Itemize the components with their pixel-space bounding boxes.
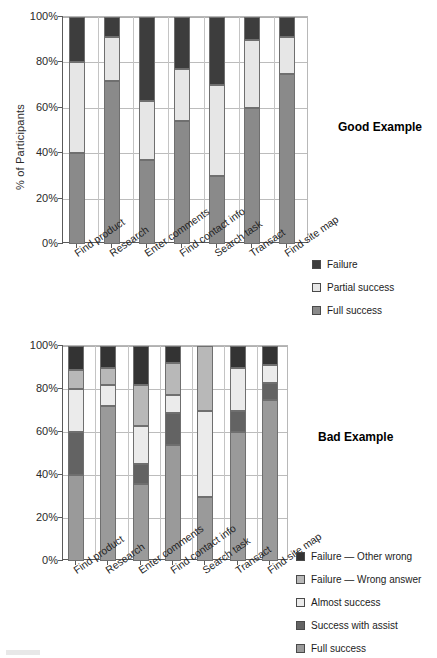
y-tick-mark (58, 152, 63, 153)
bar-segment (262, 346, 278, 365)
bar-segment (68, 370, 84, 389)
bar-segment (262, 400, 278, 561)
bar-segment (100, 385, 116, 407)
bar-segment (279, 74, 295, 244)
y-tick-mark (58, 431, 63, 432)
bad-example-plot-area (62, 345, 288, 560)
y-tick-mark (58, 107, 63, 108)
bar-segment (100, 368, 116, 385)
legend-item: Success with assist (296, 617, 421, 633)
legend-item: Failure — Wrong answer (296, 571, 421, 587)
legend-label: Failure — Wrong answer (311, 574, 421, 585)
legend-item: Full success (312, 302, 394, 318)
category-divider (133, 17, 134, 242)
bar-segment (68, 389, 84, 432)
y-tick-40: 40% (18, 146, 58, 158)
y-tick-mark (58, 560, 63, 561)
y-axis-tick-labels: 0%20%40%60%80%100% (18, 16, 58, 243)
legend-label: Full success (327, 305, 382, 316)
bar-segment (244, 40, 260, 108)
bar-segment (139, 17, 155, 101)
category-divider (274, 17, 275, 242)
bar-segment (244, 17, 260, 40)
bad-example-chart: 0%20%40%60%80%100% Find productResearchE… (0, 330, 437, 658)
category-divider (257, 346, 258, 559)
y-tick-mark (58, 388, 63, 389)
good-example-plot-area (62, 16, 308, 243)
category-divider (128, 346, 129, 559)
bar-find-product (69, 17, 85, 242)
bar-segment (133, 464, 149, 483)
bad-example-legend: Failure — Other wrongFailure — Wrong ans… (296, 548, 421, 658)
bar-segment (69, 17, 85, 62)
legend-item: Almost success (296, 594, 421, 610)
y-tick-0: 0% (18, 237, 58, 249)
bar-segment (68, 432, 84, 475)
y-tick-0: 0% (18, 554, 58, 566)
bar-segment (165, 395, 181, 412)
legend-swatch-icon (296, 621, 305, 630)
bar-segment (133, 426, 149, 465)
y-tick-mark (58, 198, 63, 199)
bar-segment (165, 346, 181, 363)
y-tick-20: 20% (18, 511, 58, 523)
y-tick-40: 40% (18, 468, 58, 480)
bar-segment (133, 346, 149, 385)
bar-segment (174, 17, 190, 69)
category-divider (160, 346, 161, 559)
y-tick-80: 80% (18, 382, 58, 394)
bar-segment (174, 69, 190, 121)
y-tick-mark (58, 16, 63, 17)
bar-research (100, 346, 116, 559)
bar-segment (133, 385, 149, 426)
legend-label: Almost success (311, 597, 380, 608)
bar-segment (197, 346, 213, 411)
legend-item: Failure (312, 256, 394, 272)
legend-label: Full success (311, 643, 366, 654)
y-tick-mark (58, 345, 63, 346)
bar-enter-comments (133, 346, 149, 559)
legend-label: Failure (327, 259, 358, 270)
y-tick-mark (58, 474, 63, 475)
category-divider (98, 17, 99, 242)
bar-enter-comments (139, 17, 155, 242)
y-tick-mark (58, 61, 63, 62)
legend-item: Failure — Other wrong (296, 548, 421, 564)
legend-label: Partial success (327, 282, 394, 293)
legend-item: Full success (296, 640, 421, 656)
bar-find-site-map (262, 346, 278, 559)
good-example-title: Good Example (338, 120, 422, 134)
scan-artifact (6, 650, 40, 655)
bar-segment (104, 17, 120, 37)
y-tick-mark (58, 517, 63, 518)
legend-label: Success with assist (311, 620, 398, 631)
bar-segment (69, 153, 85, 244)
y-tick-100: 100% (18, 339, 58, 351)
bar-transact (244, 17, 260, 242)
bar-segment (230, 346, 246, 368)
bar-segment (209, 85, 225, 176)
y-tick-80: 80% (18, 55, 58, 67)
bar-segment (68, 475, 84, 561)
bar-segment (104, 37, 120, 80)
bar-research (104, 17, 120, 242)
bar-segment (139, 101, 155, 160)
bar-segment (209, 17, 225, 85)
bar-segment (230, 411, 246, 433)
good-example-chart: % of Participants 0%20%40%60%80%100% Fin… (0, 0, 437, 330)
bar-segment (279, 17, 295, 37)
y-tick-20: 20% (18, 192, 58, 204)
bar-segment (197, 411, 213, 497)
legend-swatch-icon (296, 644, 305, 653)
category-divider (168, 17, 169, 242)
bar-find-contact-info (165, 346, 181, 559)
bar-search-task (209, 17, 225, 242)
bar-segment (262, 365, 278, 382)
y-tick-60: 60% (18, 101, 58, 113)
good-example-legend: FailurePartial successFull success (312, 256, 394, 325)
y-tick-100: 100% (18, 10, 58, 22)
legend-label: Failure — Other wrong (311, 551, 412, 562)
bar-segment (165, 363, 181, 395)
legend-swatch-icon (312, 283, 321, 292)
legend-swatch-icon (296, 598, 305, 607)
